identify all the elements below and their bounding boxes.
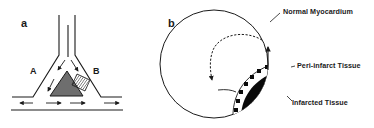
branch-label-b: B bbox=[93, 66, 100, 76]
leader-normal bbox=[270, 13, 280, 22]
panel-a bbox=[11, 15, 123, 110]
annotation-normal-myocardium: Normal Myocardium bbox=[283, 7, 353, 16]
annotation-peri-infarct: Peri-infarct Tissue bbox=[297, 61, 361, 70]
panel-b-label: b bbox=[168, 17, 175, 29]
annotation-infarcted: Infarcted Tissue bbox=[292, 98, 348, 107]
branch-label-a: A bbox=[30, 66, 37, 76]
panel-a-label: a bbox=[21, 17, 27, 29]
leader-peri bbox=[291, 66, 295, 67]
panel-b bbox=[160, 10, 295, 128]
